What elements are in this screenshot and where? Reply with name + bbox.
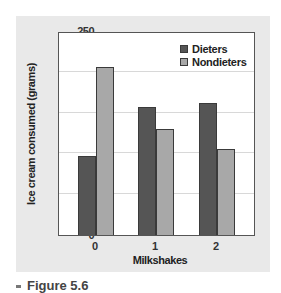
legend-label: Nondieters bbox=[192, 56, 246, 68]
legend: Dieters Nondieters bbox=[180, 42, 246, 68]
x-tick-label: 2 bbox=[206, 240, 226, 252]
legend-item-dieters: Dieters bbox=[180, 42, 246, 55]
y-axis-label: Ice cream consumed (grams) bbox=[25, 63, 37, 205]
x-axis-label: Milkshakes bbox=[130, 254, 190, 266]
bar-nondieters-0 bbox=[96, 67, 114, 235]
gridline bbox=[59, 71, 254, 72]
bar-nondieters-2 bbox=[217, 149, 235, 235]
legend-swatch-dieters bbox=[180, 45, 188, 53]
bar-dieters-2 bbox=[199, 103, 217, 235]
bar-dieters-0 bbox=[78, 156, 96, 235]
bar-dieters-1 bbox=[138, 107, 156, 235]
legend-label: Dieters bbox=[192, 43, 227, 55]
bar-nondieters-1 bbox=[156, 129, 174, 235]
legend-item-nondieters: Nondieters bbox=[180, 55, 246, 68]
legend-swatch-nondieters bbox=[180, 58, 188, 66]
gridline bbox=[59, 112, 254, 113]
x-tick-label: 0 bbox=[85, 240, 105, 252]
figure-caption: Figure 5.6 bbox=[16, 278, 88, 293]
x-tick-label: 1 bbox=[145, 240, 165, 252]
caption-bullet-icon bbox=[16, 285, 21, 288]
